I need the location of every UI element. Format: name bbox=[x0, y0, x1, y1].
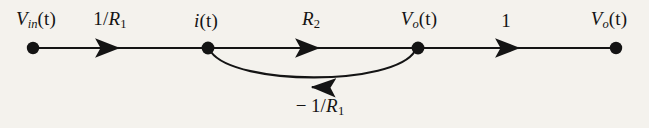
gain-label-vo-to-vo: 1 bbox=[501, 11, 511, 30]
node-label-vo-2-arg: (t) bbox=[609, 8, 628, 29]
node-label-vin-arg: (t) bbox=[38, 8, 57, 29]
gain-label-i-to-vo: R2 bbox=[302, 9, 320, 31]
gain-denominator-sub: 1 bbox=[338, 104, 344, 118]
node-vo-1 bbox=[412, 42, 425, 55]
gain-sign: − bbox=[296, 95, 307, 116]
node-label-vo-1-var: V bbox=[401, 8, 413, 29]
gain-numerator: 1 bbox=[501, 10, 511, 31]
gain-numerator: 1 bbox=[93, 8, 103, 29]
node-label-i-arg: (t) bbox=[199, 10, 218, 31]
node-label-i: i(t) bbox=[194, 11, 218, 30]
node-vo-2 bbox=[610, 42, 622, 54]
gain-denominator-var: R bbox=[326, 95, 338, 116]
signal-flow-graph-figure: Vin(t) i(t) Vo(t) Vo(t) 1/R1 R2 1 −1/R1 bbox=[0, 0, 649, 128]
node-label-vin-sub: in bbox=[28, 17, 38, 31]
gain-label-feedback: −1/R1 bbox=[296, 96, 344, 118]
node-label-vin: Vin(t) bbox=[16, 9, 56, 31]
gain-denominator-var: R bbox=[302, 8, 314, 29]
node-label-vo-2: Vo(t) bbox=[591, 9, 628, 31]
gain-denominator-sub: 1 bbox=[120, 17, 126, 31]
node-label-vin-var: V bbox=[16, 8, 28, 29]
node-i bbox=[202, 42, 215, 55]
node-vin bbox=[27, 42, 39, 54]
node-label-vo-2-var: V bbox=[591, 8, 603, 29]
gain-denominator-sub: 2 bbox=[314, 17, 320, 31]
node-label-vo-1: Vo(t) bbox=[401, 9, 438, 31]
feedback-arc-arrow bbox=[312, 87, 327, 88]
gain-numerator: 1 bbox=[311, 95, 321, 116]
node-label-vo-1-arg: (t) bbox=[419, 8, 438, 29]
gain-label-vin-to-i: 1/R1 bbox=[93, 9, 126, 31]
feedback-arc bbox=[211, 51, 415, 77]
gain-denominator-var: R bbox=[109, 8, 121, 29]
